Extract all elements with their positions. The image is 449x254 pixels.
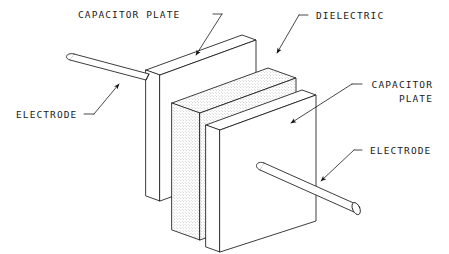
label-capacitor-plate-top: CAPACITOR PLATE	[78, 8, 180, 21]
label-electrode-left: ELECTRODE	[16, 108, 77, 121]
label-capacitor-plate-right-line1: CAPACITOR	[300, 78, 433, 91]
capacitor-assembly-drawing	[0, 0, 449, 254]
label-capacitor-plate-right-line2: PLATE	[300, 92, 433, 105]
label-dielectric: DIELECTRIC	[316, 9, 384, 22]
label-electrode-right: ELECTRODE	[370, 144, 431, 157]
leader-electrode-right	[321, 150, 362, 181]
leader-dielectric	[277, 15, 308, 53]
leader-electrode-left	[84, 84, 119, 114]
electrode-rod-upper-left	[66, 54, 149, 80]
capacitor-diagram-canvas: CAPACITOR PLATE DIELECTRIC CAPACITOR PLA…	[0, 0, 449, 254]
